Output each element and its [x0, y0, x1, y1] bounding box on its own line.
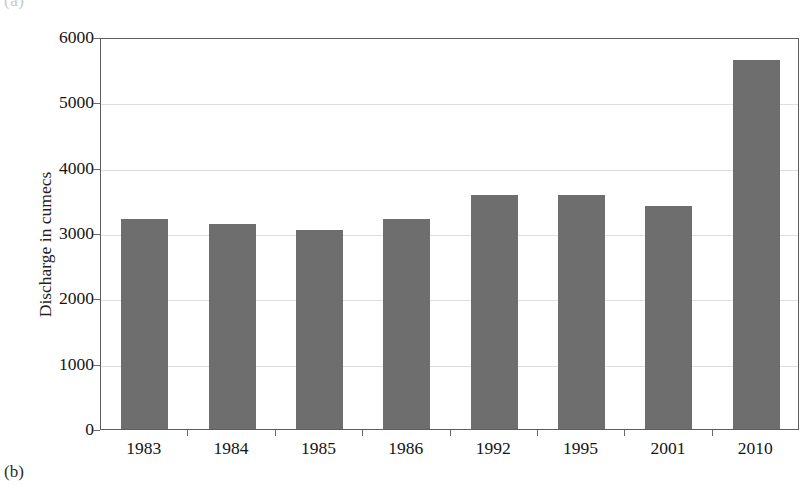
- x-tick-mark: [537, 430, 538, 436]
- x-tick-mark: [362, 430, 363, 436]
- y-tick-mark: [93, 103, 100, 104]
- y-tick-mark: [93, 169, 100, 170]
- bar-1985: [296, 230, 343, 429]
- y-tick-label: 2000: [4, 291, 94, 309]
- x-tick-label-1984: 1984: [186, 438, 276, 459]
- y-tick-label: 3000: [4, 225, 94, 243]
- y-tick-label: 0: [4, 421, 94, 439]
- y-tick-mark: [93, 38, 100, 39]
- bar-2001: [645, 206, 692, 429]
- bar-2010: [733, 60, 780, 429]
- gridline: [101, 300, 798, 301]
- bar-1995: [558, 195, 605, 429]
- gridline: [101, 366, 798, 367]
- gridline: [101, 170, 798, 171]
- y-axis-title: Discharge in cumecs: [35, 115, 56, 375]
- bar-1984: [209, 224, 256, 429]
- x-tick-mark: [450, 430, 451, 436]
- x-tick-label-2010: 2010: [710, 438, 800, 459]
- y-tick-label: 5000: [4, 95, 94, 113]
- panel-label-above-fragment: (a): [4, 0, 24, 11]
- x-tick-mark: [712, 430, 713, 436]
- y-tick-mark: [93, 430, 100, 431]
- bar-1992: [471, 195, 518, 429]
- x-tick-mark: [187, 430, 188, 436]
- y-tick-mark: [93, 365, 100, 366]
- panel-label-b: (b): [4, 462, 24, 482]
- y-tick-label: 4000: [4, 160, 94, 178]
- plot-area: [100, 38, 799, 430]
- y-tick-mark: [93, 299, 100, 300]
- x-tick-label-1995: 1995: [536, 438, 626, 459]
- y-tick-label: 1000: [4, 356, 94, 374]
- bar-1986: [383, 219, 430, 429]
- x-tick-label-2001: 2001: [623, 438, 713, 459]
- y-tick-mark: [93, 234, 100, 235]
- gridline: [101, 235, 798, 236]
- y-tick-label: 6000: [4, 29, 94, 47]
- x-tick-label-1992: 1992: [448, 438, 538, 459]
- x-tick-label-1985: 1985: [273, 438, 363, 459]
- x-tick-label-1986: 1986: [361, 438, 451, 459]
- bar-1983: [121, 219, 168, 429]
- x-tick-mark: [624, 430, 625, 436]
- x-tick-mark: [275, 430, 276, 436]
- x-tick-label-1983: 1983: [99, 438, 189, 459]
- gridline: [101, 104, 798, 105]
